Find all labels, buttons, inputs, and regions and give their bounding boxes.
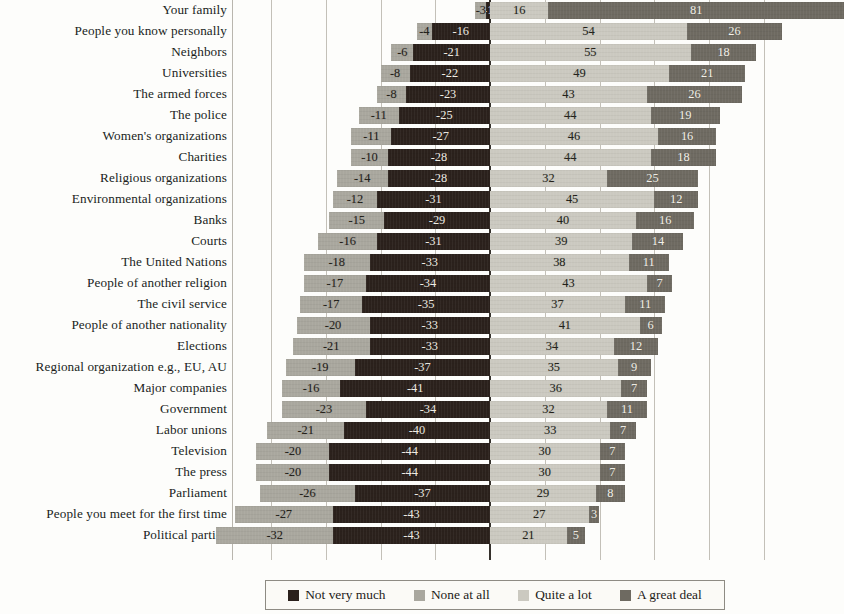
legend-label: Not very much <box>305 588 385 601</box>
segment-a-great-deal: 81 <box>548 2 844 19</box>
segment-none-at-all: -20 <box>256 464 329 481</box>
segment-none-at-all: -17 <box>300 296 362 313</box>
segment-none-at-all: -11 <box>351 128 391 145</box>
segment-a-great-deal: 12 <box>654 191 698 208</box>
segment-none-at-all: -12 <box>333 191 377 208</box>
category-label: People of another nationality <box>0 318 227 331</box>
segment-quite-a-lot: 45 <box>490 191 654 208</box>
segment-not-very-much: -33 <box>370 338 490 355</box>
bar-row: -4-165426 <box>232 23 816 40</box>
segment-none-at-all: -18 <box>304 254 370 271</box>
segment-quite-a-lot: 37 <box>490 296 625 313</box>
segment-not-very-much: -22 <box>410 65 490 82</box>
bar-row: -21-333412 <box>232 338 816 355</box>
segment-a-great-deal: 9 <box>618 359 651 376</box>
segment-quite-a-lot: 33 <box>490 422 610 439</box>
segment-none-at-all: -4 <box>417 23 432 40</box>
segment-a-great-deal: 6 <box>640 317 662 334</box>
segment-quite-a-lot: 44 <box>490 107 651 124</box>
bar-row: -19-37359 <box>232 359 816 376</box>
category-label: Television <box>0 444 227 457</box>
segment-not-very-much: -28 <box>388 149 490 166</box>
bar-row: -32-43215 <box>232 527 816 544</box>
segment-quite-a-lot: 55 <box>490 44 691 61</box>
chart-legend: Not very muchNone at allQuite a lotA gre… <box>265 580 725 610</box>
segment-quite-a-lot: 38 <box>490 254 629 271</box>
bar-row: -20-44307 <box>232 443 816 460</box>
segment-not-very-much: -31 <box>377 191 490 208</box>
segment-a-great-deal: 7 <box>600 443 626 460</box>
segment-none-at-all: -19 <box>286 359 355 376</box>
bar-row: -16-313914 <box>232 233 816 250</box>
category-label: Religious organizations <box>0 171 227 184</box>
bar-row: -11-274616 <box>232 128 816 145</box>
segment-a-great-deal: 16 <box>658 128 716 145</box>
bar-row: -8-224921 <box>232 65 816 82</box>
category-label: Regional organization e.g., EU, AU <box>0 360 227 373</box>
segment-quite-a-lot: 43 <box>490 275 647 292</box>
category-label: People you meet for the first time <box>0 507 227 520</box>
segment-quite-a-lot: 44 <box>490 149 651 166</box>
category-label: Women's organizations <box>0 129 227 142</box>
segment-not-very-much: -33 <box>370 317 490 334</box>
segment-not-very-much: -40 <box>344 422 490 439</box>
segment-none-at-all: -21 <box>293 338 370 355</box>
plot-area: -3-11681-4-165426-6-215518-8-224921-8-23… <box>232 0 816 560</box>
segment-not-very-much: -43 <box>333 527 490 544</box>
segment-a-great-deal: 16 <box>636 212 694 229</box>
segment-none-at-all: -17 <box>304 275 366 292</box>
category-label: Courts <box>0 234 227 247</box>
segment-none-at-all: -20 <box>297 317 370 334</box>
segment-none-at-all: -10 <box>351 149 388 166</box>
segment-not-very-much: -44 <box>329 464 490 481</box>
bar-row: -18-333811 <box>232 254 816 271</box>
segment-quite-a-lot: 30 <box>490 464 600 481</box>
segment-a-great-deal: 11 <box>629 254 669 271</box>
category-label: Environmental organizations <box>0 192 227 205</box>
segment-a-great-deal: 7 <box>647 275 673 292</box>
category-label: The United Nations <box>0 255 227 268</box>
segment-not-very-much: -34 <box>366 275 490 292</box>
segment-quite-a-lot: 54 <box>490 23 687 40</box>
segment-a-great-deal: 14 <box>632 233 683 250</box>
segment-none-at-all: -14 <box>337 170 388 187</box>
legend-swatch-icon <box>518 590 529 601</box>
segment-not-very-much: -28 <box>388 170 490 187</box>
segment-a-great-deal: 5 <box>567 527 585 544</box>
segment-quite-a-lot: 21 <box>490 527 567 544</box>
segment-none-at-all: -23 <box>282 401 366 418</box>
bar-row: -16-41367 <box>232 380 816 397</box>
category-label: The press <box>0 465 227 478</box>
segment-a-great-deal: 7 <box>600 464 626 481</box>
segment-quite-a-lot: 34 <box>490 338 614 355</box>
segment-a-great-deal: 12 <box>614 338 658 355</box>
segment-none-at-all: -32 <box>216 527 333 544</box>
segment-not-very-much: -23 <box>406 86 490 103</box>
category-label: Parliament <box>0 486 227 499</box>
segment-not-very-much: -35 <box>362 296 490 313</box>
category-label: Banks <box>0 213 227 226</box>
category-label: Charities <box>0 150 227 163</box>
segment-a-great-deal: 25 <box>607 170 698 187</box>
bar-row: -23-343211 <box>232 401 816 418</box>
segment-a-great-deal: 11 <box>625 296 665 313</box>
segment-not-very-much: -25 <box>399 107 490 124</box>
bar-row: -6-215518 <box>232 44 816 61</box>
bar-row: -21-40337 <box>232 422 816 439</box>
legend-item: None at all <box>414 588 490 601</box>
segment-quite-a-lot: 43 <box>490 86 647 103</box>
bar-row: -15-294016 <box>232 212 816 229</box>
segment-quite-a-lot: 40 <box>490 212 636 229</box>
segment-not-very-much: -29 <box>384 212 490 229</box>
segment-a-great-deal: 26 <box>647 86 742 103</box>
segment-not-very-much: -16 <box>432 23 490 40</box>
legend-item: Quite a lot <box>518 588 592 601</box>
segment-quite-a-lot: 29 <box>490 485 596 502</box>
segment-none-at-all: -3 <box>475 2 486 19</box>
segment-quite-a-lot: 32 <box>490 170 607 187</box>
legend-item: A great deal <box>620 588 702 601</box>
segment-a-great-deal: 26 <box>687 23 782 40</box>
bar-row: -11-254419 <box>232 107 816 124</box>
segment-a-great-deal: 8 <box>596 485 625 502</box>
bar-row: -17-34437 <box>232 275 816 292</box>
